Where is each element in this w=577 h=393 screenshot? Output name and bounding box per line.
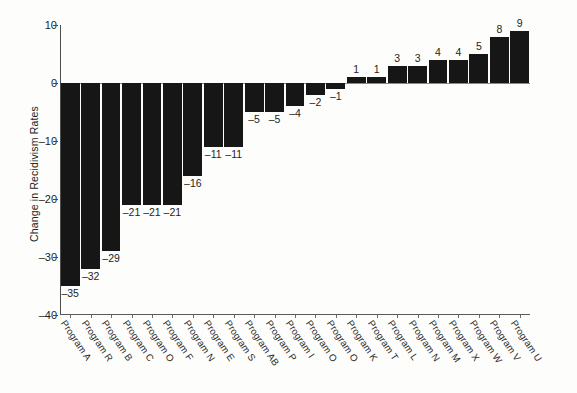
bar-slot[interactable]: –21 (163, 25, 182, 315)
x-tick-mark (295, 315, 296, 318)
x-tick-mark (499, 315, 500, 318)
bar-value-label: 9 (517, 17, 523, 29)
x-tick-mark (111, 315, 112, 318)
x-tick-mark (356, 315, 357, 318)
plot-area: –35–32–29–21–21–21–16–11–11–5–5–4–2–1113… (60, 25, 530, 315)
bar[interactable] (61, 83, 80, 286)
bar[interactable] (449, 60, 468, 83)
bar[interactable] (143, 83, 162, 205)
x-tick-mark (172, 315, 173, 318)
bar-slot[interactable]: –5 (265, 25, 284, 315)
bar-slot[interactable]: 3 (408, 25, 427, 315)
x-tick-mark (438, 315, 439, 318)
bar[interactable] (367, 77, 386, 83)
recidivism-bar-chart: Change in Recidivism Rates 100–10–20–30–… (0, 0, 577, 393)
bar-value-label: –21 (164, 206, 182, 218)
bar-value-label: –29 (102, 252, 120, 264)
bar-value-label: –5 (269, 113, 281, 125)
bar[interactable] (469, 54, 488, 83)
bar-slot[interactable]: –21 (143, 25, 162, 315)
bar-value-label: –11 (225, 148, 242, 160)
bar-slot[interactable]: 1 (367, 25, 386, 315)
bar-slot[interactable]: –16 (183, 25, 202, 315)
bar-slot[interactable]: –11 (224, 25, 243, 315)
bar[interactable] (224, 83, 243, 147)
bar-slot[interactable]: –11 (204, 25, 223, 315)
bar-value-label: 4 (456, 46, 462, 58)
bar[interactable] (122, 83, 141, 205)
bar[interactable] (81, 83, 100, 269)
y-tick-mark (53, 257, 58, 258)
bar-slot[interactable]: –5 (245, 25, 264, 315)
x-tick-mark (458, 315, 459, 318)
bar[interactable] (163, 83, 182, 205)
y-tick-label: 0 (11, 77, 57, 89)
y-tick-mark (53, 83, 58, 84)
bar-slot[interactable]: –21 (122, 25, 141, 315)
y-tick-label: 10 (11, 19, 57, 31)
bar[interactable] (388, 66, 407, 83)
bar-slot[interactable]: 5 (469, 25, 488, 315)
x-tick-mark (418, 315, 419, 318)
bar-value-label: –32 (82, 270, 100, 282)
bar-value-label: –4 (289, 107, 301, 119)
bar[interactable] (347, 77, 366, 83)
bar-value-label: 3 (415, 52, 421, 64)
bar[interactable] (204, 83, 223, 147)
y-tick-mark (53, 141, 58, 142)
bar[interactable] (490, 37, 509, 83)
bar-value-label: –21 (143, 206, 161, 218)
y-tick-label: –10 (11, 135, 57, 147)
bar-value-label: 4 (435, 46, 441, 58)
bar-slot[interactable]: –2 (306, 25, 325, 315)
bar[interactable] (326, 83, 345, 89)
x-tick-mark (479, 315, 480, 318)
bar-value-label: 3 (394, 52, 400, 64)
bar-value-label: –11 (205, 148, 222, 160)
x-tick-mark (275, 315, 276, 318)
bar-slot[interactable]: 4 (449, 25, 468, 315)
y-tick-mark (53, 25, 58, 26)
bar-value-label: 1 (353, 63, 359, 75)
bar-value-label: –5 (248, 113, 260, 125)
bar-slot[interactable]: –4 (286, 25, 305, 315)
y-tick-mark (53, 315, 58, 316)
y-tick-label: –40 (11, 309, 57, 321)
x-tick-mark (254, 315, 255, 318)
x-tick-mark (520, 315, 521, 318)
bar[interactable] (510, 31, 529, 83)
bar-slot[interactable]: –29 (102, 25, 121, 315)
bar-slot[interactable]: 4 (429, 25, 448, 315)
bar-slot[interactable]: –35 (61, 25, 80, 315)
bar-slot[interactable]: 9 (510, 25, 529, 315)
x-axis-labels: Program AProgram RProgram BProgram CProg… (60, 318, 530, 393)
y-axis-ticks: 100–10–20–30–40 (0, 0, 57, 393)
x-tick-mark (70, 315, 71, 318)
bar[interactable] (183, 83, 202, 176)
bar[interactable] (408, 66, 427, 83)
bar-slot[interactable]: 8 (490, 25, 509, 315)
bar-value-label: –1 (330, 90, 342, 102)
x-tick-mark (234, 315, 235, 318)
bar-value-label: 8 (496, 23, 502, 35)
bar[interactable] (429, 60, 448, 83)
x-tick-mark (152, 315, 153, 318)
bar-slot[interactable]: –1 (326, 25, 345, 315)
bar[interactable] (306, 83, 325, 95)
bar-value-label: 5 (476, 40, 482, 52)
y-tick-mark (53, 199, 58, 200)
x-tick-mark (193, 315, 194, 318)
bar-value-label: –2 (310, 96, 322, 108)
bar-slot[interactable]: 3 (388, 25, 407, 315)
bar[interactable] (245, 83, 264, 112)
bar-slot[interactable]: 1 (347, 25, 366, 315)
bar-series: –35–32–29–21–21–21–16–11–11–5–5–4–2–1113… (60, 25, 530, 315)
y-tick-label: –20 (11, 193, 57, 205)
x-tick-mark (377, 315, 378, 318)
bar[interactable] (286, 83, 305, 106)
bar[interactable] (102, 83, 121, 251)
bar[interactable] (265, 83, 284, 112)
bar-slot[interactable]: –32 (81, 25, 100, 315)
bar-value-label: –16 (184, 177, 202, 189)
bar-value-label: –21 (123, 206, 141, 218)
